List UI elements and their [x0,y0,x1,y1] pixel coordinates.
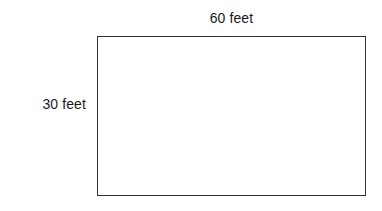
rectangle-shape [97,36,366,196]
diagram-canvas: 60 feet 30 feet [0,0,382,211]
width-dimension-label: 60 feet [97,10,366,26]
height-dimension-label: 30 feet [0,96,86,112]
